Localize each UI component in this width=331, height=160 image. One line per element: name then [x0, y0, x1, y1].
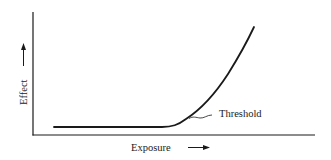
y-axis-label: Effect — [18, 79, 29, 105]
right-arrow-icon — [188, 145, 210, 150]
dose-response-chart: Threshold Exposure Effect — [0, 0, 331, 160]
up-arrow-icon — [21, 43, 26, 66]
x-axis-label: Exposure — [131, 142, 171, 153]
threshold-label: Threshold — [219, 108, 262, 119]
